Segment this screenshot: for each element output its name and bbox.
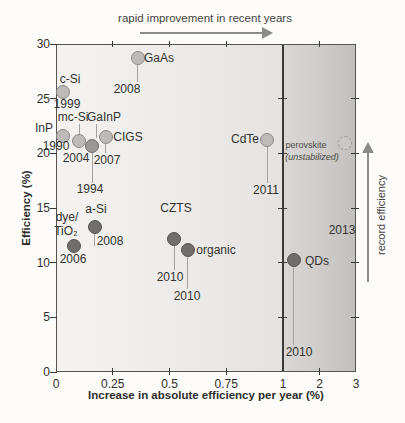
x-tick-top [112, 41, 113, 47]
x-tick-top [319, 41, 320, 47]
y-tick-label-30: 30 [16, 37, 50, 51]
year-label-QDs: 2010 [269, 346, 329, 359]
solar-efficiency-scatter-figure: rapid improvement in recent years record… [0, 0, 405, 423]
y-axis-title: Efficiency (%) [19, 138, 33, 278]
x-tick-bottom [169, 368, 170, 375]
year-label-perovskite (unstabilized): 2013 [312, 224, 372, 237]
y-tick-divider [278, 317, 287, 318]
year-label-CZTS: 2010 [140, 271, 200, 284]
point-label-GaAs-0: GaAs [114, 52, 204, 65]
point-stem-QDs [293, 260, 294, 345]
y-tick [50, 317, 57, 318]
x-tick-top [226, 41, 227, 47]
y-tick-divider [278, 208, 287, 209]
point-label-dye/TiO2-0: dye/ [22, 211, 112, 224]
point-label-GaInP-0: GaInP [59, 111, 149, 124]
up-arrow-icon [367, 152, 369, 282]
year-label-CdTe: 2011 [236, 184, 296, 197]
right-arrow-icon [140, 32, 264, 34]
y-tick-right [351, 98, 359, 99]
point-label-perovskite (unstabilized)-0: perovskite [261, 140, 351, 150]
up-arrowhead-icon [362, 142, 374, 153]
point-label-organic-0: organic [171, 244, 261, 257]
point-label-perovskite (unstabilized)-1: (unstabilized) [267, 152, 357, 162]
x-tick-top [169, 41, 170, 47]
point-label-CIGS-0: CIGS [83, 131, 173, 144]
y-tick-right [351, 317, 359, 318]
y-tick [50, 372, 57, 373]
year-label-GaAs: 2008 [97, 83, 157, 96]
point-label-QDs-0: QDs [272, 255, 362, 268]
x-axis-title: Increase in absolute efficiency per year… [56, 389, 356, 401]
record-efficiency-annotation: record efficiency [374, 150, 388, 280]
y-tick-right [351, 208, 359, 209]
year-label-organic: 2010 [157, 290, 217, 303]
year-label-GaInP: 1994 [60, 183, 120, 196]
right-arrowhead-icon [262, 27, 273, 39]
x-tick-bottom [319, 368, 320, 375]
y-tick-divider [278, 98, 287, 99]
x-tick-bottom [112, 368, 113, 375]
top-annotation-text: rapid improvement in recent years [110, 12, 300, 24]
x-tick-bottom [226, 368, 227, 375]
point-label-dye/TiO2-1: TiO₂ [21, 225, 111, 238]
year-label-CIGS: 2007 [77, 154, 137, 167]
year-label-dye/TiO2: 2006 [43, 253, 103, 266]
point-label-CZTS-0: CZTS [131, 202, 221, 215]
y-tick [50, 44, 57, 45]
y-tick-label-5: 5 [16, 310, 50, 324]
